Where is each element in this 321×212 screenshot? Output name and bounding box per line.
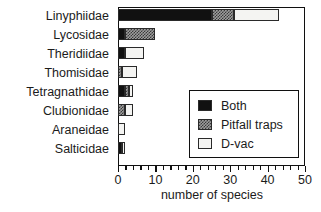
bar-segment bbox=[125, 104, 132, 116]
bar-chart-figure: LinyphiidaeLycosidaeTheridiidaeThomisida… bbox=[0, 0, 321, 212]
legend-label: Both bbox=[221, 99, 247, 113]
legend-item: Pitfall traps bbox=[190, 115, 298, 134]
x-axis-major-tick bbox=[268, 166, 269, 172]
bar-segment bbox=[118, 47, 125, 59]
x-axis-minor-tick bbox=[140, 166, 141, 170]
x-axis-major-tick bbox=[118, 166, 119, 172]
x-axis-tick-label: 50 bbox=[298, 173, 312, 187]
category-label: Linyphiidae bbox=[46, 7, 109, 26]
bar-segment bbox=[122, 142, 126, 154]
category-label: Tetragnathidae bbox=[26, 83, 109, 102]
x-axis-tick-label: 40 bbox=[261, 173, 275, 187]
x-axis-minor-tick bbox=[200, 166, 201, 170]
x-axis-major-tick bbox=[155, 166, 156, 172]
x-axis-tick-label: 20 bbox=[186, 173, 200, 187]
x-axis-minor-tick bbox=[125, 166, 126, 170]
x-axis-minor-tick bbox=[245, 166, 246, 170]
bar-row bbox=[118, 26, 305, 45]
bar-row bbox=[118, 64, 305, 83]
x-axis-minor-tick bbox=[253, 166, 254, 170]
bar-segment bbox=[129, 85, 133, 97]
x-axis: 01020304050 bbox=[118, 166, 306, 188]
x-axis-title: number of species bbox=[118, 188, 306, 202]
category-label: Thomisidae bbox=[44, 64, 109, 83]
x-axis-tick-label: 0 bbox=[115, 173, 122, 187]
x-axis-minor-tick bbox=[275, 166, 276, 170]
x-axis-minor-tick bbox=[298, 166, 299, 170]
x-axis-minor-tick bbox=[215, 166, 216, 170]
bar-segment bbox=[125, 47, 144, 59]
x-axis-minor-tick bbox=[170, 166, 171, 170]
white-swatch bbox=[198, 138, 212, 149]
x-axis-minor-tick bbox=[133, 166, 134, 170]
x-axis-minor-tick bbox=[208, 166, 209, 170]
bar-segment bbox=[118, 85, 125, 97]
x-axis-minor-tick bbox=[163, 166, 164, 170]
x-axis-tick-label: 30 bbox=[223, 173, 237, 187]
x-axis-major-tick bbox=[193, 166, 194, 172]
x-axis-minor-tick bbox=[178, 166, 179, 170]
bar-row bbox=[118, 7, 305, 26]
x-axis-minor-tick bbox=[238, 166, 239, 170]
category-label: Clubionidae bbox=[43, 102, 109, 121]
x-axis-major-tick bbox=[305, 166, 306, 172]
bar-segment bbox=[118, 123, 125, 135]
category-label: Lycosidae bbox=[53, 26, 109, 45]
legend-label: D-vac bbox=[221, 137, 254, 151]
solid-black-swatch bbox=[198, 100, 212, 111]
bar-segment bbox=[212, 9, 234, 21]
x-axis-tick-label: 10 bbox=[148, 173, 162, 187]
bar-segment bbox=[118, 9, 212, 21]
x-axis-major-tick bbox=[230, 166, 231, 172]
category-label: Araneidae bbox=[52, 121, 109, 140]
bar-segment bbox=[122, 66, 137, 78]
x-axis-minor-tick bbox=[148, 166, 149, 170]
category-label: Salticidae bbox=[55, 140, 109, 159]
checkered-gray-swatch bbox=[198, 119, 212, 130]
chart-legend: BothPitfall trapsD-vac bbox=[189, 90, 299, 158]
x-axis-minor-tick bbox=[283, 166, 284, 170]
category-axis-labels: LinyphiidaeLycosidaeTheridiidaeThomisida… bbox=[0, 7, 113, 159]
legend-item: D-vac bbox=[190, 134, 298, 153]
x-axis-minor-tick bbox=[260, 166, 261, 170]
category-label: Theridiidae bbox=[47, 45, 109, 64]
x-axis-minor-tick bbox=[223, 166, 224, 170]
legend-item: Both bbox=[190, 96, 298, 115]
bar-segment bbox=[125, 28, 155, 40]
x-axis-minor-tick bbox=[185, 166, 186, 170]
legend-label: Pitfall traps bbox=[221, 118, 283, 132]
bar-row bbox=[118, 45, 305, 64]
bar-segment bbox=[118, 104, 125, 116]
bar-segment bbox=[118, 28, 125, 40]
x-axis-minor-tick bbox=[290, 166, 291, 170]
bar-segment bbox=[234, 9, 279, 21]
